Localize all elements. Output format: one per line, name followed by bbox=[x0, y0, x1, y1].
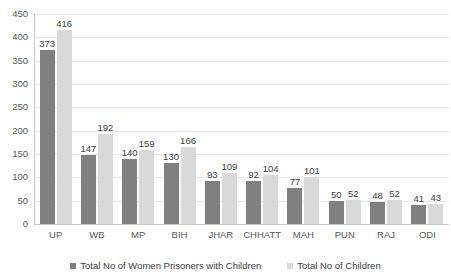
x-axis-tick-label: UP bbox=[35, 229, 76, 240]
y-axis-tick-label: 0 bbox=[23, 219, 28, 229]
legend-label: Total No of Women Prisoners with Childre… bbox=[80, 261, 261, 271]
bar: 192 bbox=[98, 134, 113, 224]
bars-container: 3734161471921401591301669310992104771015… bbox=[35, 14, 448, 224]
bar: 109 bbox=[222, 173, 237, 224]
bar: 166 bbox=[181, 147, 196, 224]
bar-value-label: 92 bbox=[248, 170, 259, 180]
x-axis-tick-label: WB bbox=[76, 229, 117, 240]
bar-group: 147192 bbox=[76, 14, 117, 224]
bar-chart: 050100150200250300350400450 373416147192… bbox=[0, 0, 451, 275]
x-axis-tick-label: MP bbox=[118, 229, 159, 240]
bar-group: 4143 bbox=[407, 14, 448, 224]
x-axis-tick-label: CHHATT bbox=[241, 229, 282, 240]
legend-swatch-icon bbox=[287, 263, 293, 269]
bar-value-label: 52 bbox=[348, 189, 359, 199]
bar-value-label: 93 bbox=[207, 170, 218, 180]
bar-group: 4852 bbox=[365, 14, 406, 224]
bar-value-label: 50 bbox=[331, 190, 342, 200]
bar: 41 bbox=[411, 205, 426, 224]
x-axis-tick-label: MAH bbox=[283, 229, 324, 240]
bar: 130 bbox=[164, 163, 179, 224]
bar-value-label: 159 bbox=[139, 139, 155, 149]
bar: 93 bbox=[205, 181, 220, 224]
bar-value-label: 166 bbox=[180, 136, 196, 146]
y-axis-tick-label: 300 bbox=[12, 79, 28, 89]
bar: 373 bbox=[40, 50, 55, 224]
bar-value-label: 77 bbox=[290, 177, 301, 187]
bar-value-label: 130 bbox=[163, 152, 179, 162]
x-axis-tick-label: RAJ bbox=[365, 229, 406, 240]
bar: 92 bbox=[246, 181, 261, 224]
legend-item[interactable]: Total No of Children bbox=[287, 261, 380, 271]
x-axis-tick-label: PUN bbox=[324, 229, 365, 240]
bar: 52 bbox=[346, 200, 361, 224]
bar-value-label: 43 bbox=[431, 193, 442, 203]
bar-group: 373416 bbox=[35, 14, 76, 224]
bar-value-label: 140 bbox=[122, 148, 138, 158]
y-axis-tick-label: 350 bbox=[12, 56, 28, 66]
bar-value-label: 104 bbox=[263, 164, 279, 174]
y-axis-tick-label: 100 bbox=[12, 173, 28, 183]
legend-item[interactable]: Total No of Women Prisoners with Childre… bbox=[70, 261, 261, 271]
y-axis-tick-label: 50 bbox=[17, 196, 28, 206]
bar-value-label: 109 bbox=[221, 162, 237, 172]
bar: 159 bbox=[139, 150, 154, 224]
legend-swatch-icon bbox=[70, 263, 76, 269]
bar-group: 140159 bbox=[118, 14, 159, 224]
plot-area: 050100150200250300350400450 373416147192… bbox=[0, 0, 451, 248]
y-axis-tick-label: 250 bbox=[12, 103, 28, 113]
y-axis: 050100150200250300350400450 bbox=[0, 0, 32, 248]
bar-value-label: 101 bbox=[304, 166, 320, 176]
bar-group: 77101 bbox=[283, 14, 324, 224]
y-axis-tick-label: 200 bbox=[12, 126, 28, 136]
bar-group: 5052 bbox=[324, 14, 365, 224]
x-axis-tick-label: ODI bbox=[407, 229, 448, 240]
x-axis: UPWBMPBIHJHARCHHATTMAHPUNRAJODI bbox=[35, 229, 448, 240]
x-axis-tick-label: JHAR bbox=[200, 229, 241, 240]
chart-legend: Total No of Women Prisoners with Childre… bbox=[0, 261, 451, 271]
bar-group: 92104 bbox=[241, 14, 282, 224]
bar: 140 bbox=[122, 159, 137, 224]
bar-group: 130166 bbox=[159, 14, 200, 224]
bar-value-label: 48 bbox=[372, 191, 383, 201]
bar: 43 bbox=[428, 204, 443, 224]
bar-value-label: 373 bbox=[39, 39, 55, 49]
x-axis-line bbox=[34, 224, 449, 225]
y-axis-tick-label: 150 bbox=[12, 149, 28, 159]
y-axis-tick-label: 450 bbox=[12, 9, 28, 19]
bar-value-label: 147 bbox=[81, 144, 97, 154]
bar-value-label: 416 bbox=[56, 19, 72, 29]
bar: 147 bbox=[81, 155, 96, 224]
bar: 50 bbox=[329, 201, 344, 224]
bar: 104 bbox=[263, 175, 278, 224]
bar: 101 bbox=[304, 177, 319, 224]
x-axis-tick-label: BIH bbox=[159, 229, 200, 240]
bar: 48 bbox=[370, 202, 385, 224]
bar-value-label: 41 bbox=[414, 194, 425, 204]
bar-value-label: 52 bbox=[389, 189, 400, 199]
bar: 416 bbox=[57, 30, 72, 224]
bar-group: 93109 bbox=[200, 14, 241, 224]
bar: 52 bbox=[387, 200, 402, 224]
bar: 77 bbox=[287, 188, 302, 224]
legend-label: Total No of Children bbox=[297, 261, 380, 271]
y-axis-tick-label: 400 bbox=[12, 33, 28, 43]
bar-value-label: 192 bbox=[98, 123, 114, 133]
